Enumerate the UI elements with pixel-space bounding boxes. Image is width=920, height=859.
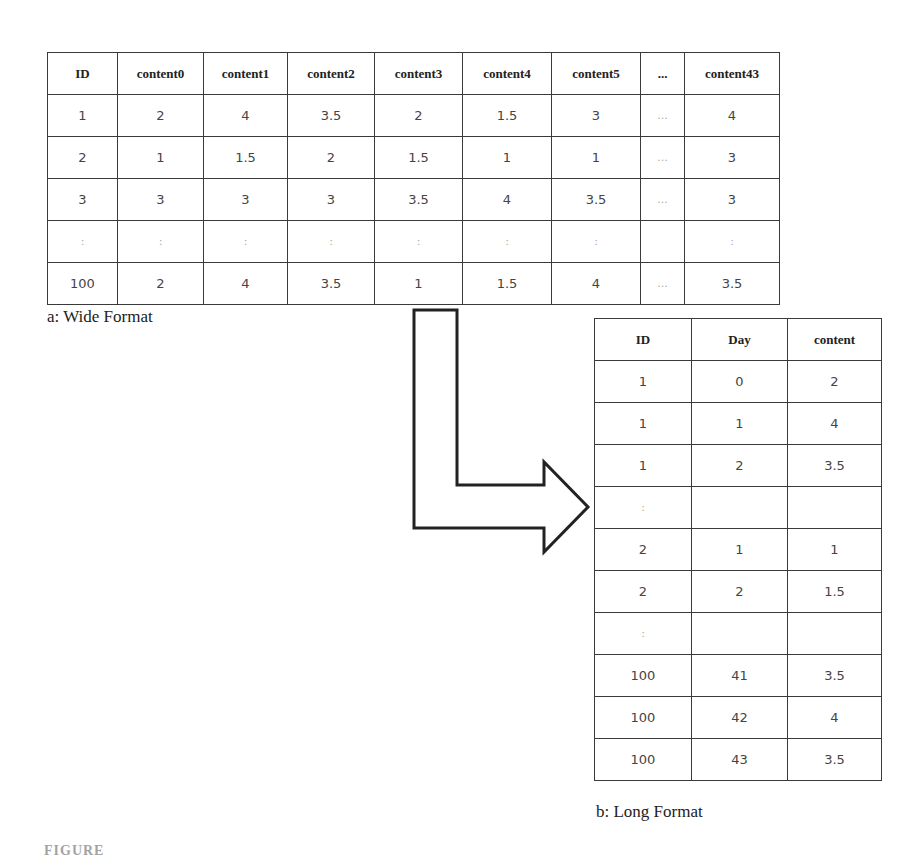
- table-cell: 100: [595, 739, 692, 781]
- table-cell: [788, 613, 882, 655]
- table-cell: 2: [595, 529, 692, 571]
- table-row: 100 41 3.5: [595, 655, 882, 697]
- table-cell: 2: [788, 361, 882, 403]
- table-cell: 1: [595, 403, 692, 445]
- table-cell: 4: [788, 403, 882, 445]
- table-cell: 1.5: [788, 571, 882, 613]
- table-cell: :: [595, 487, 692, 529]
- table-cell: 3.5: [788, 739, 882, 781]
- table-cell: 1: [595, 445, 692, 487]
- table-row: 100 42 4: [595, 697, 882, 739]
- long-format-table: ID Day content 1 0 2 1 1 4 1 2 3.5 : 2 1: [594, 318, 882, 781]
- table-cell: 41: [692, 655, 788, 697]
- table-cell: 1: [692, 529, 788, 571]
- table-cell: 42: [692, 697, 788, 739]
- table-cell: 43: [692, 739, 788, 781]
- table-cell: 100: [595, 697, 692, 739]
- table-cell: 2: [692, 571, 788, 613]
- table-cell: 3.5: [788, 655, 882, 697]
- long-format-caption: b: Long Format: [596, 802, 703, 822]
- figure-caption: FIGURE: [44, 843, 104, 859]
- header-cell: ID: [595, 319, 692, 361]
- table-cell: [788, 487, 882, 529]
- table-cell: 0: [692, 361, 788, 403]
- table-row: 2 1 1: [595, 529, 882, 571]
- table-cell: 100: [595, 655, 692, 697]
- table-row: 2 2 1.5: [595, 571, 882, 613]
- header-cell: Day: [692, 319, 788, 361]
- table-cell: [692, 487, 788, 529]
- table-cell: :: [595, 613, 692, 655]
- table-cell: 2: [692, 445, 788, 487]
- table-row: 1 0 2: [595, 361, 882, 403]
- table-row: 1 1 4: [595, 403, 882, 445]
- table-cell: 4: [788, 697, 882, 739]
- long-header-row: ID Day content: [595, 319, 882, 361]
- table-row-ellipsis: :: [595, 487, 882, 529]
- table-cell: 3.5: [788, 445, 882, 487]
- table-cell: 1: [788, 529, 882, 571]
- table-row-ellipsis: :: [595, 613, 882, 655]
- header-cell: content: [788, 319, 882, 361]
- table-row: 100 43 3.5: [595, 739, 882, 781]
- table-row: 1 2 3.5: [595, 445, 882, 487]
- table-cell: 1: [595, 361, 692, 403]
- table-cell: 2: [595, 571, 692, 613]
- table-cell: [692, 613, 788, 655]
- table-cell: 1: [692, 403, 788, 445]
